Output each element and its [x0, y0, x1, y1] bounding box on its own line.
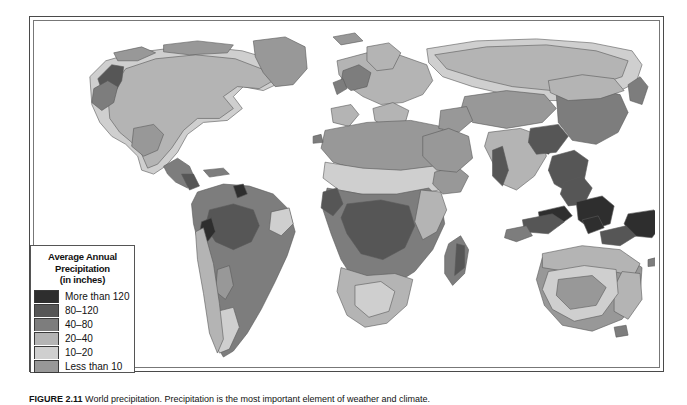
- legend-swatch-40-80: [34, 318, 59, 331]
- legend-title: Average Annual Precipitation (in inches): [31, 246, 134, 290]
- legend-swatch-20-40: [34, 332, 59, 345]
- legend-label-40-80: 40–80: [59, 318, 93, 331]
- legend-swatch-80-120: [34, 304, 59, 317]
- legend-swatch-more-than-120: [34, 290, 59, 303]
- legend-swatch-10-20: [34, 346, 59, 359]
- legend-label-less-than-10: Less than 10: [59, 360, 122, 373]
- legend-entry: 80–120: [34, 304, 134, 318]
- legend-swatch-less-than-10: [34, 360, 59, 373]
- legend-label-80-120: 80–120: [59, 304, 98, 317]
- legend-title-line-1: Average Annual: [33, 251, 132, 263]
- legend-entry: 10–20: [34, 346, 134, 360]
- legend-title-line-2: Precipitation: [33, 263, 132, 275]
- legend-label-20-40: 20–40: [59, 332, 93, 345]
- legend-label-more-than-120: More than 120: [59, 290, 130, 303]
- legend-title-line-3: (in inches): [33, 274, 132, 286]
- legend-label-10-20: 10–20: [59, 346, 93, 359]
- legend-entries: More than 120 80–120 40–80 20–40 10–20 L…: [31, 290, 134, 374]
- map-legend: Average Annual Precipitation (in inches)…: [30, 245, 135, 373]
- figure-caption: FIGURE 2.11 World precipitation. Precipi…: [29, 394, 669, 405]
- legend-entry: Less than 10: [34, 360, 134, 374]
- figure-caption-text: World precipitation. Precipitation is th…: [85, 394, 430, 404]
- legend-entry: 20–40: [34, 332, 134, 346]
- figure-caption-label: FIGURE 2.11: [29, 394, 83, 404]
- legend-entry: More than 120: [34, 290, 134, 304]
- legend-entry: 40–80: [34, 318, 134, 332]
